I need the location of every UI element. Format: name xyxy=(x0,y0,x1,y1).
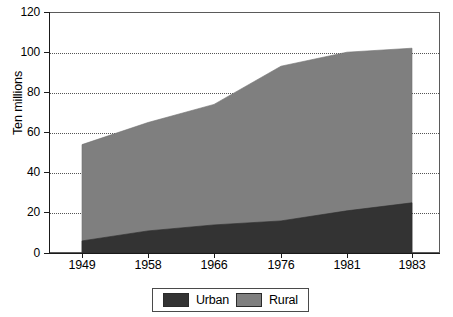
x-tick-label-1981: 1981 xyxy=(317,259,377,272)
y-tick-mark-40 xyxy=(44,172,49,173)
legend-swatch-urban xyxy=(163,293,189,307)
legend-label-rural: Rural xyxy=(269,294,298,307)
x-tick-label-1958: 1958 xyxy=(118,259,178,272)
y-axis-title: Ten millions xyxy=(11,23,25,183)
y-tick-label-120: 120 xyxy=(0,6,40,18)
x-tick-label-1966: 1966 xyxy=(184,259,244,272)
y-axis-line xyxy=(49,12,50,254)
y-tick-mark-120 xyxy=(44,12,49,13)
chart-root: 120 100 80 60 40 20 0 Ten millions 1949 … xyxy=(0,0,453,317)
y-tick-mark-60 xyxy=(44,132,49,133)
y-tick-mark-20 xyxy=(44,212,49,213)
legend-swatch-rural xyxy=(236,293,262,307)
legend-item-rural: Rural xyxy=(236,293,298,307)
legend-label-urban: Urban xyxy=(196,294,229,307)
x-tick-label-1949: 1949 xyxy=(52,259,112,272)
y-tick-label-0: 0 xyxy=(0,247,40,259)
y-tick-label-20: 20 xyxy=(0,206,40,218)
y-tick-mark-80 xyxy=(44,92,49,93)
x-tick-label-1976: 1976 xyxy=(251,259,311,272)
x-tick-label-1983: 1983 xyxy=(382,259,442,272)
y-tick-mark-100 xyxy=(44,52,49,53)
chart-legend: Urban Rural xyxy=(152,288,309,312)
legend-item-urban: Urban xyxy=(163,293,229,307)
x-axis-line xyxy=(49,253,440,254)
